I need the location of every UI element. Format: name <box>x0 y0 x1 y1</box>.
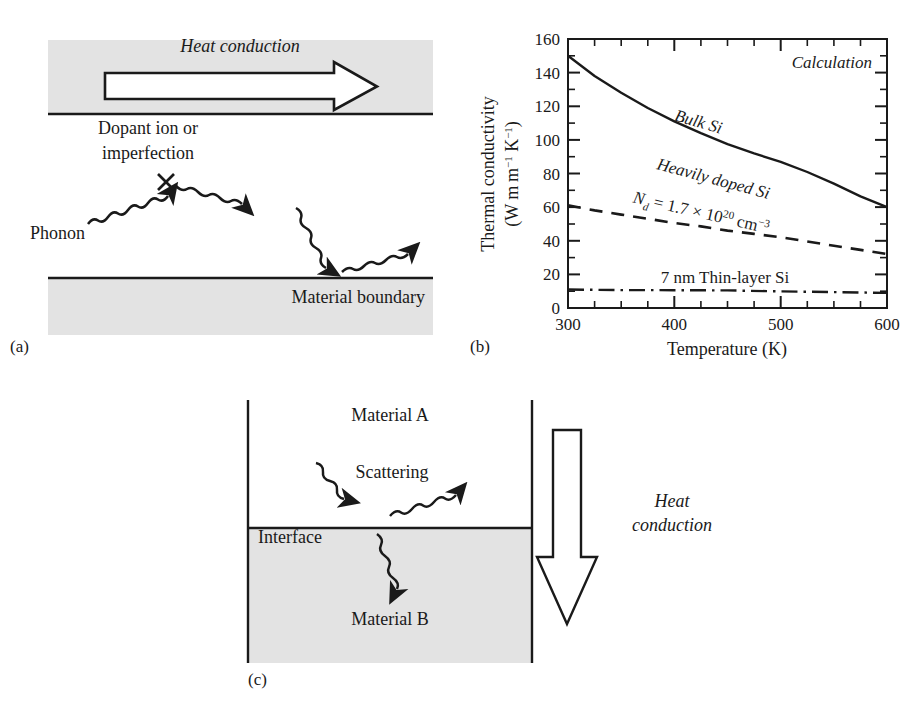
nd-unit-exponent: −3 <box>757 215 772 229</box>
boundary-incident-phonon-wave <box>296 208 326 268</box>
calculation-annotation: Calculation <box>792 53 872 72</box>
figure-canvas: Heat conduction Dopant ion or imperfecti… <box>0 0 924 714</box>
incident-phonon-wave <box>316 463 344 499</box>
nd-unit: cm <box>731 211 760 235</box>
curve-label-thin-layer-si: 7 nm Thin-layer Si <box>661 268 790 287</box>
y-tick-labels: 0 20 40 60 80 100 120 140 160 <box>535 30 561 318</box>
panel-a-tag: (a) <box>10 337 29 356</box>
panel-a-heat-conduction-label: Heat conduction <box>179 36 299 56</box>
y-axis-title-line1: Thermal conductivity <box>478 96 498 251</box>
y-axis-title-line2: (W m m−1 K−1) <box>502 121 523 227</box>
material-b-band <box>248 529 532 663</box>
x-tick-600: 600 <box>874 315 900 334</box>
panel-c-heat-label-line2: conduction <box>632 515 712 535</box>
figure-root: Heat conduction Dopant ion or imperfecti… <box>0 0 924 714</box>
scatter-site-x-icon <box>158 174 174 190</box>
dopant-label-line1: Dopant ion or <box>98 118 198 138</box>
x-tick-500: 500 <box>768 315 794 334</box>
scattering-label: Scattering <box>356 462 429 482</box>
x-tick-400: 400 <box>662 315 688 334</box>
panel-c-tag: (c) <box>248 670 267 689</box>
panel-b: 0 20 40 60 80 100 120 140 160 <box>470 30 900 360</box>
y-unit-suffix: ) <box>502 121 523 127</box>
y-unit-exp1: −1 <box>502 156 514 168</box>
y-unit-prefix: (W m <box>502 186 523 227</box>
panel-c-heat-label-line1: Heat <box>654 491 691 511</box>
y-tick-60: 60 <box>543 198 560 217</box>
incoming-phonon-wave <box>88 196 168 224</box>
y-unit-exp2: −1 <box>502 127 514 139</box>
x-tick-labels: 300 400 500 600 <box>555 315 900 334</box>
material-b-label: Material B <box>351 609 428 629</box>
y-tick-100: 100 <box>535 131 561 150</box>
panel-a: Heat conduction Dopant ion or imperfecti… <box>10 36 433 356</box>
heat-conduction-arrow-c <box>537 430 597 624</box>
panel-b-tag: (b) <box>470 337 490 356</box>
dopant-label-line2: imperfection <box>102 143 194 163</box>
y-tick-20: 20 <box>543 265 560 284</box>
y-tick-80: 80 <box>543 165 560 184</box>
interface-label: Interface <box>258 527 322 547</box>
y-tick-140: 140 <box>535 64 561 83</box>
y-tick-120: 120 <box>535 97 561 116</box>
material-a-label: Material A <box>351 405 428 425</box>
scattered-phonon-wave <box>176 186 242 204</box>
y-tick-40: 40 <box>543 232 560 251</box>
y-tick-160: 160 <box>535 30 561 49</box>
scattered-phonon-wave-c <box>390 495 456 516</box>
panel-c: Material A Material B Interface Scatteri… <box>248 400 712 689</box>
x-axis-title: Temperature (K) <box>667 339 787 360</box>
material-boundary-label: Material boundary <box>292 287 425 307</box>
series-thin-layer-si-line <box>568 290 887 293</box>
y-unit-mid: K <box>502 139 522 157</box>
phonon-label: Phonon <box>30 223 85 243</box>
boundary-reflected-phonon-wave <box>342 254 408 272</box>
x-tick-300: 300 <box>555 315 581 334</box>
